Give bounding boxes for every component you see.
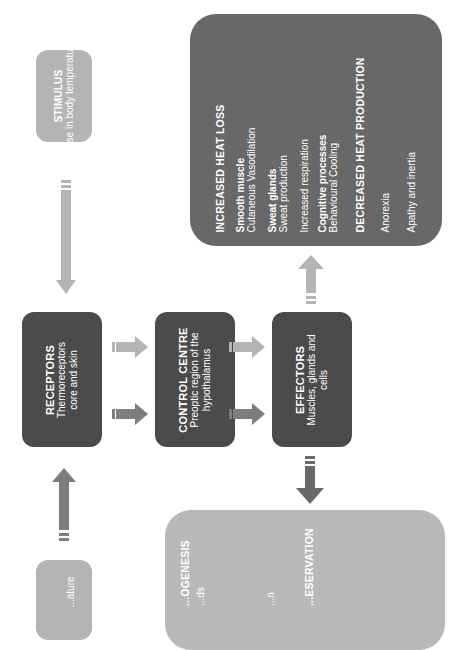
heat-gain-line1: ...ds: [195, 587, 207, 606]
arrow-stimulus-to-receptors: [56, 180, 76, 300]
stimulus2-text: ...ature: [65, 576, 77, 607]
decreased-production-heading: DECREASED HEAT PRODUCTION: [354, 28, 366, 233]
heat-loss-heading: INCREASED HEAT LOSS: [214, 28, 226, 233]
heat-loss-item-3-text: Behavioural Cooling: [328, 28, 340, 233]
heat-gain-line2: ...n: [265, 592, 277, 606]
heat-loss-item-0-bold: Smooth muscle: [235, 28, 246, 233]
arrow-effectors-to-heat-gain: [296, 456, 324, 506]
heat-loss-item-2-text: Increased respiration: [299, 28, 311, 233]
control-centre-box: CONTROL CENTRE Preoptic region of the hy…: [155, 312, 235, 447]
control-centre-title: CONTROL CENTRE: [177, 327, 189, 432]
effectors-line2: cells: [318, 334, 330, 425]
receptors-title: RECEPTORS: [44, 341, 56, 417]
heat-loss-item-0-text: Cutaneous Vasodilation: [246, 28, 258, 233]
receptors-box: RECEPTORS Thermoreceptors core and skin: [22, 312, 102, 447]
arrow-receptors-to-control-dark: [112, 403, 148, 425]
stimulus-title: STIMULUS: [53, 50, 64, 142]
control-centre-line2: hypothalamus: [201, 327, 213, 432]
effectors-line1: Muscles, glands and: [306, 334, 318, 425]
stimulus-box-fall: ...ature: [36, 560, 92, 640]
heat-gain-heading2: ...ESERVATION: [303, 528, 315, 606]
heat-gain-response-box: ...OGENESIS ...ds ...ESERVATION ...n: [165, 510, 445, 650]
decreased-production-item-1: Apathy and inertia: [406, 28, 418, 233]
heat-loss-item-1-bold: Sweat glands: [267, 28, 278, 233]
heat-loss-response-box: INCREASED HEAT LOSS Smooth muscle Cutane…: [190, 14, 442, 246]
heat-loss-item-1-text: Sweat production: [278, 28, 290, 233]
control-centre-line1: Preoptic region of the: [189, 327, 201, 432]
stimulus-text: Rise in body temperature: [64, 50, 76, 142]
arrow-stimulus2-to-receptors: [52, 468, 76, 548]
effectors-box: EFFECTORS Muscles, glands and cells: [272, 312, 352, 447]
heat-gain-heading1: ...OGENESIS: [179, 540, 191, 606]
effectors-title: EFFECTORS: [294, 334, 306, 425]
decreased-production-item-0: Anorexia: [380, 28, 392, 233]
stimulus-box-rise: STIMULUS Rise in body temperature: [36, 50, 92, 142]
receptors-line1: Thermoreceptors: [56, 341, 68, 417]
arrow-control-to-effectors-dark: [229, 403, 265, 425]
arrow-control-to-effectors-light: [229, 336, 265, 358]
arrow-effectors-to-heat-loss: [298, 255, 324, 307]
arrow-receptors-to-control-light: [112, 336, 148, 358]
receptors-line2: core and skin: [68, 341, 80, 417]
heat-loss-item-3-bold: Cognitive processes: [317, 28, 328, 233]
